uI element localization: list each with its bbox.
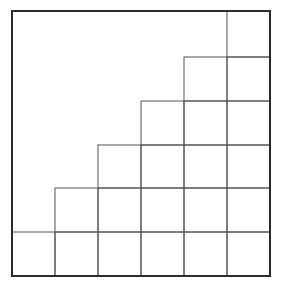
grid-cell: [12, 232, 55, 276]
grid-cell: [227, 57, 270, 101]
grid-cell: [141, 145, 184, 188]
grid-cell: [98, 188, 141, 232]
grid-cell: [227, 101, 270, 145]
grid-cells: [12, 11, 270, 276]
grid-cell: [141, 188, 184, 232]
grid-cell: [184, 232, 227, 276]
grid-cell: [227, 188, 270, 232]
grid-cell: [98, 145, 141, 188]
grid-cell: [184, 57, 227, 101]
grid-cell: [55, 188, 98, 232]
grid-cell: [141, 101, 184, 145]
grid-cell: [227, 232, 270, 276]
grid-cell: [184, 188, 227, 232]
grid-cell: [184, 145, 227, 188]
grid-cell: [227, 11, 270, 57]
staircase-grid-diagram: [0, 0, 287, 294]
grid-cell: [98, 232, 141, 276]
grid-cell: [55, 232, 98, 276]
grid-cell: [184, 101, 227, 145]
grid-cell: [141, 232, 184, 276]
grid-cell: [227, 145, 270, 188]
